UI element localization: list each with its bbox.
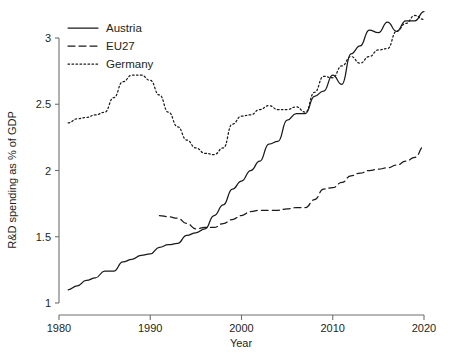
x-axis-tick-labels: 19801990200020102020 — [47, 322, 436, 334]
x-tick-label: 2000 — [229, 322, 253, 334]
y-tick-label: 1 — [45, 297, 51, 309]
y-tick-label: 3 — [45, 32, 51, 44]
series-group — [68, 12, 424, 290]
y-tick-label: 1.5 — [36, 231, 51, 243]
x-axis-ticks — [59, 315, 424, 320]
x-tick-label: 2020 — [412, 322, 436, 334]
y-tick-label: 2 — [45, 165, 51, 177]
chart-figure: 11.522.53 19801990200020102020 Year R&D … — [0, 0, 451, 358]
series-line-eu27 — [159, 147, 424, 229]
y-axis-title: R&D spending as % of GDP — [6, 111, 18, 249]
legend-label-austria: Austria — [106, 22, 142, 34]
x-tick-label: 2010 — [321, 322, 345, 334]
y-tick-label: 2.5 — [36, 98, 51, 110]
x-tick-label: 1980 — [47, 322, 71, 334]
x-axis-title: Year — [230, 337, 253, 349]
rd-spending-line-chart: 11.522.53 19801990200020102020 Year R&D … — [0, 0, 451, 358]
y-axis-tick-labels: 11.522.53 — [36, 32, 51, 309]
series-line-austria — [68, 12, 424, 290]
legend-label-eu27: EU27 — [106, 40, 135, 52]
y-axis-ticks — [55, 38, 59, 303]
x-tick-label: 1990 — [138, 322, 162, 334]
chart-legend: AustriaEU27Germany — [68, 22, 154, 70]
series-line-germany — [68, 15, 424, 154]
legend-label-germany: Germany — [106, 58, 154, 70]
